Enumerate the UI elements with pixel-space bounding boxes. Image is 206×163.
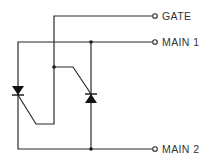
left-scr-icon (12, 86, 24, 95)
main1-wire (18, 42, 152, 149)
main2-junction-dot (89, 147, 93, 151)
gate-label: GATE (162, 11, 191, 22)
main1-label: MAIN 1 (162, 37, 199, 48)
gate-branch-wire (54, 67, 91, 94)
gate-terminal-icon (153, 14, 158, 19)
gate-junction-dot (52, 65, 56, 69)
right-scr-icon (85, 94, 97, 103)
gate-wire (18, 16, 152, 124)
triac-schematic (0, 0, 206, 163)
main1-terminal-icon (153, 40, 158, 45)
main2-label: MAIN 2 (162, 144, 199, 155)
main2-terminal-icon (153, 147, 158, 152)
